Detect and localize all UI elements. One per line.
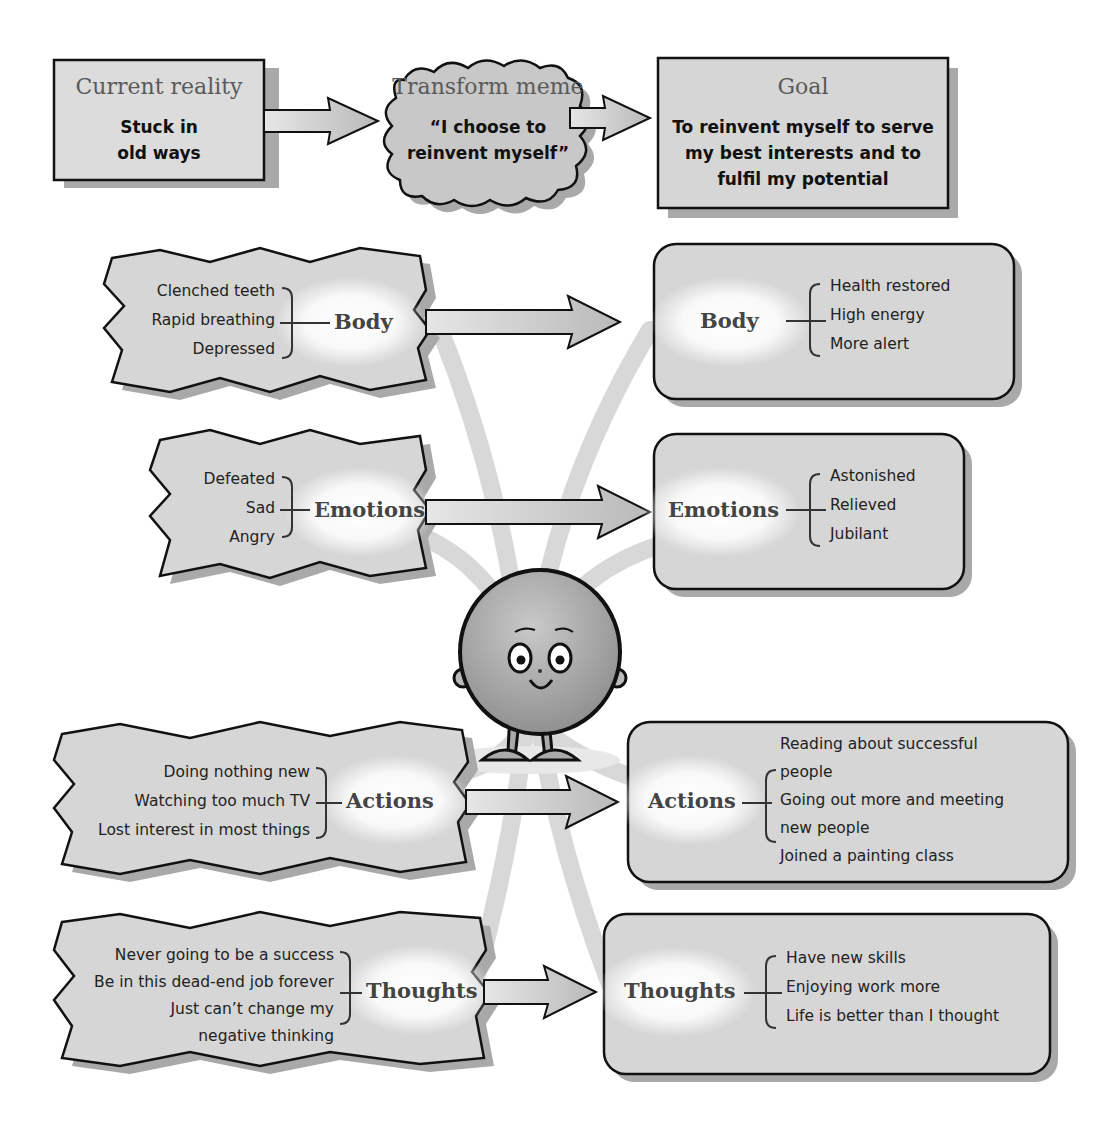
list-item: Life is better than I thought xyxy=(786,1002,1046,1031)
thoughts-arrow xyxy=(484,966,596,1018)
thoughts-after-label: Thoughts xyxy=(624,978,736,1003)
thoughts-before-list: Never going to be a success Be in this d… xyxy=(60,942,334,1050)
list-item: Never going to be a success xyxy=(60,942,334,969)
list-item: Joined a painting class xyxy=(780,842,1060,870)
actions-before-list: Doing nothing new Watching too much TV L… xyxy=(70,758,310,845)
list-item: Clenched teeth xyxy=(110,277,275,306)
transform-meme-line2: reinvent myself” xyxy=(388,140,588,166)
list-item: people xyxy=(780,758,1060,786)
thoughts-after-list: Have new skills Enjoying work more Life … xyxy=(786,944,1046,1031)
emotions-before-label: Emotions xyxy=(314,497,425,522)
list-item: Angry xyxy=(160,523,275,552)
emotions-after-label: Emotions xyxy=(668,497,779,522)
list-item: Defeated xyxy=(160,465,275,494)
list-item: new people xyxy=(780,814,1060,842)
emotions-arrow xyxy=(426,486,650,538)
list-item: High energy xyxy=(830,301,1010,330)
list-item: Doing nothing new xyxy=(70,758,310,787)
list-item: Going out more and meeting xyxy=(780,786,1060,814)
body-after-label: Body xyxy=(700,308,759,333)
list-item: More alert xyxy=(830,330,1010,359)
transform-meme-title: Transform meme xyxy=(388,74,588,99)
list-item: Have new skills xyxy=(786,944,1046,973)
current-reality-title: Current reality xyxy=(54,74,264,99)
list-item: Lost interest in most things xyxy=(70,816,310,845)
actions-after-label: Actions xyxy=(648,788,736,813)
list-item: Depressed xyxy=(110,335,275,364)
goal-line2: my best interests and to xyxy=(658,140,948,166)
actions-after-list: Reading about successful people Going ou… xyxy=(780,730,1060,870)
emotions-before-list: Defeated Sad Angry xyxy=(160,465,275,552)
list-item: Health restored xyxy=(830,272,1010,301)
body-before-label: Body xyxy=(334,309,393,334)
list-item: negative thinking xyxy=(60,1023,334,1050)
list-item: Enjoying work more xyxy=(786,973,1046,1002)
transform-meme-line1: “I choose to xyxy=(388,114,588,140)
list-item: Relieved xyxy=(830,491,960,520)
list-item: Rapid breathing xyxy=(110,306,275,335)
current-reality-line2: old ways xyxy=(54,140,264,166)
thoughts-before-label: Thoughts xyxy=(366,978,478,1003)
list-item: Astonished xyxy=(830,462,960,491)
body-before-list: Clenched teeth Rapid breathing Depressed xyxy=(110,277,275,364)
list-item: Sad xyxy=(160,494,275,523)
list-item: Just can’t change my xyxy=(60,996,334,1023)
list-item: Reading about successful xyxy=(780,730,1060,758)
body-arrow xyxy=(426,296,620,348)
current-reality-line1: Stuck in xyxy=(54,114,264,140)
goal-line3: fulfil my potential xyxy=(658,166,948,192)
emotions-after-list: Astonished Relieved Jubilant xyxy=(830,462,960,549)
goal-title: Goal xyxy=(658,74,948,99)
arrow-1 xyxy=(264,98,378,144)
goal-line1: To reinvent myself to serve xyxy=(658,114,948,140)
body-after-list: Health restored High energy More alert xyxy=(830,272,1010,359)
actions-before-label: Actions xyxy=(346,788,434,813)
list-item: Jubilant xyxy=(830,520,960,549)
list-item: Watching too much TV xyxy=(70,787,310,816)
list-item: Be in this dead-end job forever xyxy=(60,969,334,996)
